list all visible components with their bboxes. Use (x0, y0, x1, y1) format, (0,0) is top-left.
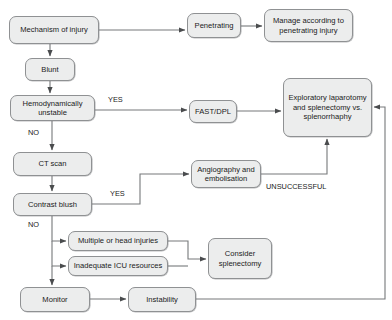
node-label: CT scan (17, 159, 88, 168)
edge-multiple-icu-to-consider (168, 241, 206, 259)
node-label: Inadequate ICU resources (72, 261, 164, 270)
node-label: Contrast blush (17, 200, 88, 209)
edge-label-no-contrast: NO (28, 221, 39, 229)
node-ct-scan[interactable]: CT scan (13, 152, 92, 176)
node-exploratory-laparotomy[interactable]: Exploratory laparotomy and splenectomy v… (283, 78, 372, 137)
node-label: Mechanism of injury (13, 25, 95, 34)
edge-label-no-hemodynamic: NO (28, 129, 39, 137)
node-contrast-blush[interactable]: Contrast blush (13, 193, 92, 216)
node-mechanism-of-injury[interactable]: Mechanism of injury (9, 16, 99, 44)
edge-label-yes-hemodynamic: YES (108, 96, 123, 104)
edge-angio-to-exploratory (261, 139, 327, 174)
node-fast-dpl[interactable]: FAST/DPL (189, 100, 237, 123)
node-label: Manage according to penetrating injury (268, 16, 349, 35)
node-manage-penetrating-injury[interactable]: Manage according to penetrating injury (264, 9, 353, 42)
edge-label-yes-contrast: YES (110, 190, 125, 198)
edge-contrast-to-icu (52, 241, 66, 266)
node-monitor[interactable]: Monitor (20, 287, 90, 312)
node-penetrating[interactable]: Penetrating (187, 13, 241, 38)
node-label: Monitor (24, 295, 86, 304)
node-instability[interactable]: Instability (128, 287, 196, 312)
flowchart-canvas: Mechanism of injury Penetrating Manage a… (0, 0, 392, 320)
node-hemodynamically-unstable[interactable]: Hemodynamically unstable (10, 95, 95, 121)
node-label: Angiography and embolisation (195, 165, 257, 184)
node-label: Hemodynamically unstable (14, 99, 91, 118)
edge-contrast-to-multiple (52, 216, 66, 241)
node-inadequate-icu-resources[interactable]: Inadequate ICU resources (68, 256, 168, 276)
edge-contrast-to-angio (92, 174, 189, 204)
edge-label-unsuccessful: UNSUCCESSFUL (266, 183, 326, 191)
node-consider-splenectomy[interactable]: Consider splenectomy (208, 238, 272, 279)
node-label: Blunt (29, 65, 71, 74)
node-multiple-or-head-injuries[interactable]: Multiple or head injuries (68, 231, 168, 251)
node-label: Multiple or head injuries (72, 236, 164, 245)
node-label: FAST/DPL (193, 107, 233, 116)
node-blunt[interactable]: Blunt (25, 58, 75, 81)
node-label: Penetrating (191, 21, 237, 30)
node-angiography-embolisation[interactable]: Angiography and embolisation (191, 160, 261, 188)
node-label: Exploratory laparotomy and splenectomy v… (287, 93, 368, 121)
node-label: Instability (132, 295, 192, 304)
node-label: Consider splenectomy (212, 249, 268, 268)
